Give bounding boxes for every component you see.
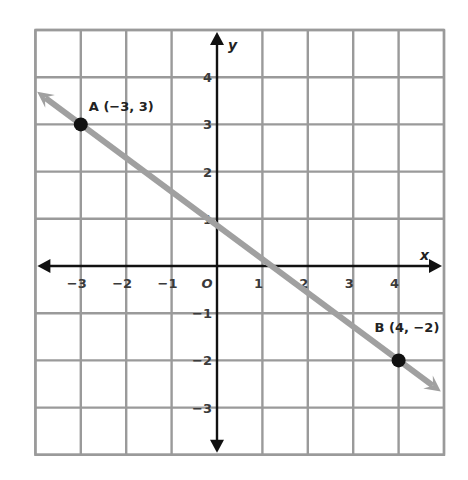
point-label-b: B (4, −2) [375,320,440,335]
x-axis-left-arrow-icon [37,259,50,273]
tick-labels: −3−2−1O12344321−1−2−3 [67,70,399,415]
y-axis-label: y [228,37,238,53]
x-tick-label: −2 [112,276,132,291]
y-tick-label: −2 [192,353,212,368]
y-tick-label: −3 [192,401,212,416]
x-tick-label: 3 [345,276,354,291]
point-b [392,353,406,367]
y-tick-label: 3 [203,117,212,132]
x-axis-label: x [419,247,430,263]
x-tick-label: 4 [390,276,399,291]
y-axis-down-arrow-icon [210,440,224,453]
x-tick-label: −3 [67,276,87,291]
data-points: A (−3, 3)B (4, −2) [74,99,440,367]
y-tick-label: 2 [203,165,212,180]
point-label-a: A (−3, 3) [89,99,154,114]
line-series [37,92,441,392]
y-axis-up-arrow-icon [210,32,224,45]
y-tick-label: −1 [192,306,212,321]
coordinate-plane: −3−2−1O12344321−1−2−3 A (−3, 3)B (4, −2)… [0,0,468,480]
x-tick-label: 1 [254,276,263,291]
y-tick-label: 4 [203,70,212,85]
line-ab [45,98,433,386]
x-tick-label: −1 [158,276,178,291]
point-a [74,117,88,131]
x-axis-right-arrow-icon [429,259,442,273]
x-tick-label: O [201,276,212,291]
